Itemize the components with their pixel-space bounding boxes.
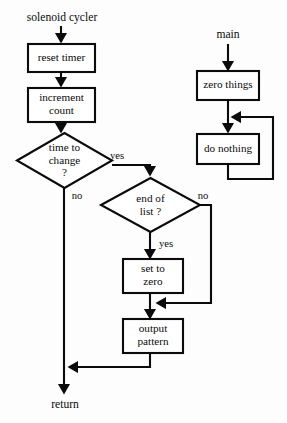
node-set-to-zero xyxy=(123,259,183,293)
node-reset-timer xyxy=(28,44,95,72)
edge-output-pattern-to-return-trunk xyxy=(70,353,150,367)
flowchart-canvas: solenoid cycler main return reset timer … xyxy=(0,0,287,423)
node-output-pattern xyxy=(123,319,183,353)
edge-time-to-change-yes-to-end-of-list xyxy=(112,165,150,174)
node-increment-count xyxy=(28,88,95,122)
node-time-to-change xyxy=(17,133,112,188)
node-do-nothing xyxy=(197,134,259,164)
node-end-of-list xyxy=(101,178,200,232)
node-zero-things xyxy=(197,71,259,100)
flowchart-graphics xyxy=(0,0,287,423)
